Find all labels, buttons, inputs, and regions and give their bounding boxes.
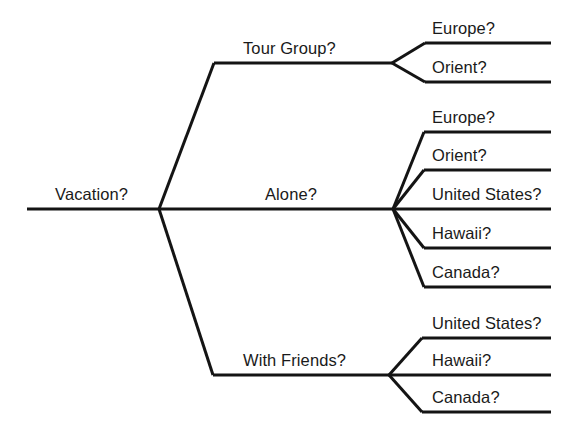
leaf-diagonal-alone-canada bbox=[393, 209, 424, 287]
leaf-label-alone-canada: Canada? bbox=[432, 264, 500, 281]
leaf-label-with-friends-hawaii: Hawaii? bbox=[432, 352, 491, 369]
leaf-label-with-friends-united-states: United States? bbox=[432, 315, 542, 332]
leaf-diagonal-tour-group-europe bbox=[392, 43, 425, 63]
leaf-diagonal-tour-group-orient bbox=[392, 63, 425, 82]
branch-diagonal-with-friends bbox=[159, 209, 213, 375]
branch-label-with-friends: With Friends? bbox=[243, 352, 346, 369]
decision-tree-diagram: Vacation?Tour Group?Europe?Orient?Alone?… bbox=[0, 0, 574, 439]
leaf-diagonal-alone-orient bbox=[393, 170, 424, 209]
branch-label-tour-group: Tour Group? bbox=[243, 40, 336, 57]
leaf-label-alone-orient: Orient? bbox=[432, 147, 487, 164]
leaf-label-alone-hawaii: Hawaii? bbox=[432, 225, 491, 242]
tree-connector-lines bbox=[0, 0, 574, 439]
branch-label-alone: Alone? bbox=[265, 186, 317, 203]
leaf-label-with-friends-canada: Canada? bbox=[432, 389, 500, 406]
branch-diagonal-tour-group bbox=[159, 63, 214, 209]
root-label-vacation: Vacation? bbox=[55, 186, 128, 203]
leaf-diagonal-with-friends-united-states bbox=[389, 338, 422, 375]
leaf-label-alone-united-states: United States? bbox=[432, 186, 542, 203]
leaf-diagonal-with-friends-canada bbox=[389, 375, 422, 412]
leaf-diagonal-alone-europe bbox=[393, 132, 424, 209]
leaf-label-tour-group-europe: Europe? bbox=[432, 20, 495, 37]
leaf-label-tour-group-orient: Orient? bbox=[432, 59, 487, 76]
leaf-diagonal-alone-hawaii bbox=[393, 209, 424, 248]
leaf-label-alone-europe: Europe? bbox=[432, 109, 495, 126]
